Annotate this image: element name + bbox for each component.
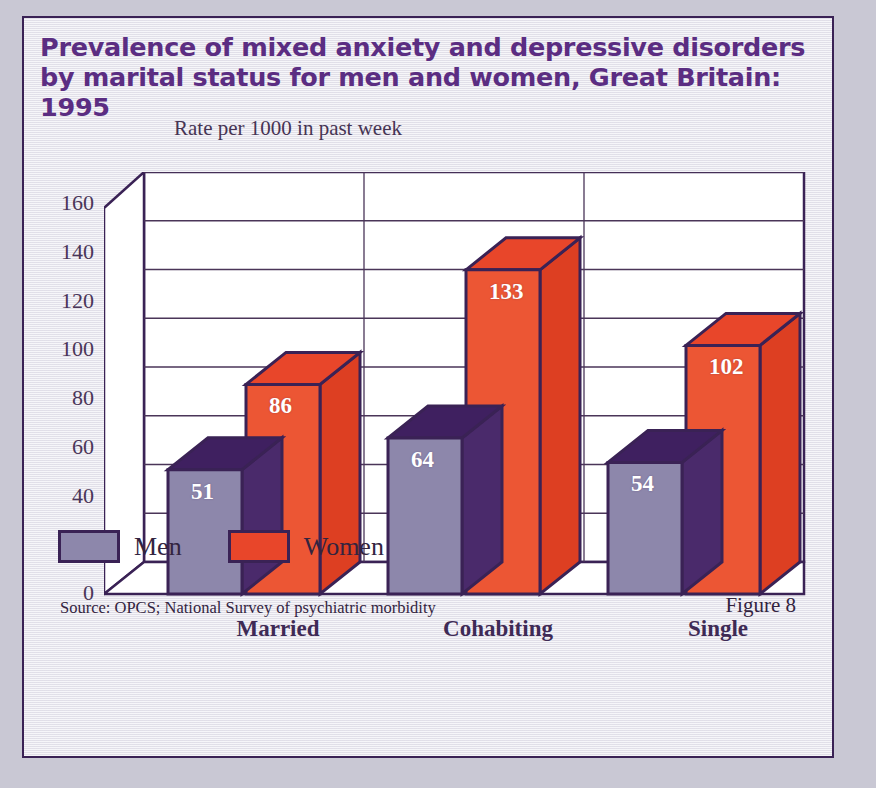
bar-label-women-married: 86 — [269, 393, 292, 419]
figure-title-line1: Prevalence of mixed anxiety and depressi… — [40, 32, 805, 62]
figure-number: Figure 8 — [725, 593, 796, 618]
figure-title-line2: by marital status for men and women, Gre… — [40, 62, 830, 122]
bar-label-men-single: 54 — [631, 471, 654, 497]
y-tick-40: 40 — [24, 483, 94, 509]
bar-label-men-married: 51 — [191, 479, 214, 505]
plot-area: 020406080100120140160 — [24, 158, 832, 638]
legend-item-men: Men — [58, 530, 182, 563]
bar-men-married — [168, 438, 282, 594]
x-label-cohabiting: Cohabiting — [398, 616, 598, 642]
y-tick-100: 100 — [24, 336, 94, 362]
bar-label-women-cohabiting: 133 — [489, 279, 524, 305]
chart-legend: Men Women — [58, 530, 430, 563]
legend-label-men: Men — [134, 532, 182, 562]
y-tick-140: 140 — [24, 239, 94, 265]
x-label-single: Single — [618, 616, 818, 642]
figure-card: Prevalence of mixed anxiety and depressi… — [22, 16, 834, 758]
y-tick-160: 160 — [24, 190, 94, 216]
figure-title: Prevalence of mixed anxiety and depressi… — [40, 32, 830, 122]
bar-men-cohabiting — [388, 406, 502, 594]
y-tick-60: 60 — [24, 434, 94, 460]
legend-label-women: Women — [304, 532, 384, 562]
y-tick-80: 80 — [24, 385, 94, 411]
bar-label-women-single: 102 — [709, 354, 744, 380]
x-label-married: Married — [178, 616, 378, 642]
axis-subtitle: Rate per 1000 in past week — [174, 116, 402, 141]
y-tick-120: 120 — [24, 288, 94, 314]
source-note: Source: OPCS; National Survey of psychia… — [60, 598, 436, 618]
bar-men-single — [608, 430, 722, 594]
figure-page: Prevalence of mixed anxiety and depressi… — [0, 0, 876, 788]
legend-item-women: Women — [228, 530, 384, 563]
bar-label-men-cohabiting: 64 — [411, 447, 434, 473]
legend-swatch-women — [228, 530, 290, 563]
legend-swatch-men — [58, 530, 120, 563]
